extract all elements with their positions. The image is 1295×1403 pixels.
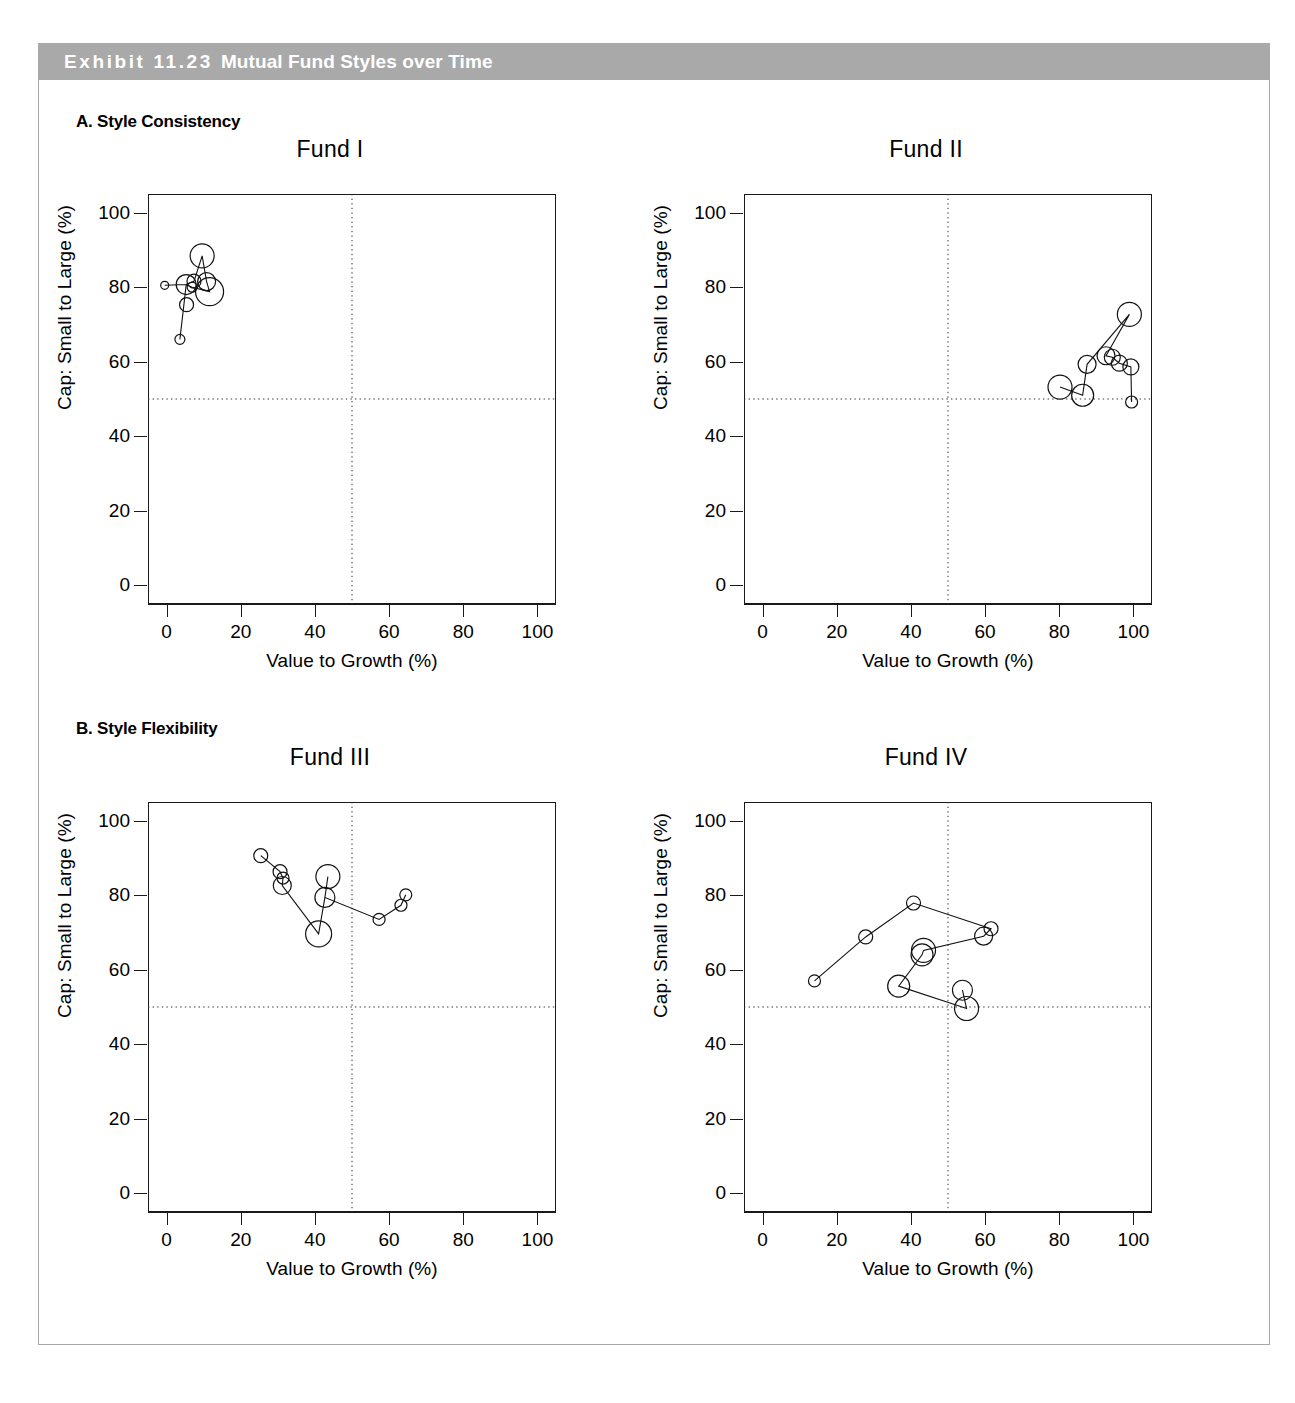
y-tick-mark [134, 362, 147, 363]
chart-panel-fund-4: Fund IV Value to Growth (%) Cap: Small t… [636, 740, 1216, 1285]
x-tick-label: 60 [955, 1229, 1015, 1251]
x-tick-label: 60 [359, 1229, 419, 1251]
x-tick-label: 20 [807, 621, 867, 643]
x-tick-label: 20 [807, 1229, 867, 1251]
data-point-marker [1048, 375, 1072, 399]
data-point-marker [187, 282, 197, 292]
x-axis-line [148, 1212, 556, 1213]
x-tick-mark [537, 1212, 538, 1225]
y-tick-label: 60 [680, 351, 726, 373]
x-tick-label: 0 [733, 621, 793, 643]
data-point-marker [859, 930, 873, 944]
data-point-marker [175, 334, 185, 344]
data-point-marker [1117, 302, 1141, 326]
data-point-marker [273, 876, 291, 894]
data-point-marker [955, 996, 979, 1020]
y-tick-label: 0 [84, 1182, 130, 1204]
x-tick-mark [911, 1212, 912, 1225]
x-tick-label: 100 [1103, 621, 1163, 643]
chart-panel-fund-1: Fund I Value to Growth (%) Cap: Small to… [40, 132, 620, 677]
x-tick-label: 0 [733, 1229, 793, 1251]
x-tick-mark [1133, 604, 1134, 617]
data-point-marker [315, 887, 335, 907]
exhibit-header-bar: Exhibit 11.23Mutual Fund Styles over Tim… [38, 43, 1270, 80]
x-tick-mark [389, 604, 390, 617]
plot-canvas-fund-2 [744, 194, 1152, 604]
y-tick-label: 0 [84, 574, 130, 596]
y-tick-mark [134, 895, 147, 896]
x-tick-mark [837, 604, 838, 617]
x-tick-label: 0 [137, 621, 197, 643]
y-tick-mark [134, 1044, 147, 1045]
x-tick-mark [241, 604, 242, 617]
y-tick-mark [134, 213, 147, 214]
x-tick-mark [167, 604, 168, 617]
x-tick-label: 80 [433, 621, 493, 643]
x-tick-mark [537, 604, 538, 617]
y-tick-mark [730, 1193, 743, 1194]
x-tick-label: 40 [285, 621, 345, 643]
x-tick-label: 60 [955, 621, 1015, 643]
exhibit-header-text: Exhibit 11.23Mutual Fund Styles over Tim… [38, 51, 493, 73]
y-tick-mark [134, 436, 147, 437]
chart-title-fund-1: Fund I [40, 136, 620, 163]
y-tick-mark [730, 362, 743, 363]
exhibit-title: Mutual Fund Styles over Time [221, 51, 493, 72]
y-tick-label: 80 [84, 276, 130, 298]
data-point-marker [1123, 359, 1139, 375]
y-tick-mark [134, 585, 147, 586]
x-tick-mark [315, 1212, 316, 1225]
data-point-marker [190, 244, 214, 268]
data-point-marker [975, 927, 993, 945]
y-tick-label: 60 [84, 351, 130, 373]
x-tick-label: 60 [359, 621, 419, 643]
data-point-marker [1126, 396, 1138, 408]
y-axis-title-fund-1: Cap: Small to Large (%) [54, 205, 76, 410]
data-point-marker [400, 889, 412, 901]
y-tick-label: 40 [680, 425, 726, 447]
y-tick-label: 100 [84, 202, 130, 224]
data-point-marker [907, 896, 921, 910]
x-tick-mark [763, 1212, 764, 1225]
x-tick-mark [241, 1212, 242, 1225]
y-axis-title-fund-2: Cap: Small to Large (%) [650, 205, 672, 410]
data-point-marker [316, 865, 340, 889]
data-point-marker [952, 980, 972, 1000]
y-tick-label: 80 [84, 884, 130, 906]
y-tick-mark [730, 585, 743, 586]
y-tick-label: 100 [84, 810, 130, 832]
y-axis-title-fund-3: Cap: Small to Large (%) [54, 813, 76, 1018]
y-tick-label: 100 [680, 202, 726, 224]
x-tick-label: 40 [881, 1229, 941, 1251]
x-axis-line [744, 604, 1152, 605]
y-tick-label: 40 [84, 1033, 130, 1055]
x-tick-label: 100 [507, 621, 567, 643]
data-point-marker [161, 281, 169, 289]
x-axis-title-fund-1: Value to Growth (%) [148, 650, 556, 672]
data-point-marker [1078, 355, 1096, 373]
data-point-marker [808, 975, 820, 987]
y-tick-mark [730, 511, 743, 512]
y-tick-mark [730, 287, 743, 288]
y-tick-mark [730, 1119, 743, 1120]
x-tick-mark [463, 1212, 464, 1225]
x-tick-mark [985, 604, 986, 617]
data-point-marker [306, 921, 332, 947]
x-tick-mark [167, 1212, 168, 1225]
x-tick-mark [1133, 1212, 1134, 1225]
x-axis-title-fund-3: Value to Growth (%) [148, 1258, 556, 1280]
chart-title-fund-2: Fund II [636, 136, 1216, 163]
data-point-marker [373, 913, 385, 925]
x-tick-mark [315, 604, 316, 617]
x-tick-label: 0 [137, 1229, 197, 1251]
plot-canvas-fund-1 [148, 194, 556, 604]
y-tick-label: 0 [680, 1182, 726, 1204]
x-tick-label: 20 [211, 1229, 271, 1251]
y-tick-mark [730, 1044, 743, 1045]
x-tick-mark [389, 1212, 390, 1225]
y-tick-mark [730, 436, 743, 437]
x-tick-mark [463, 604, 464, 617]
y-tick-label: 60 [84, 959, 130, 981]
plot-canvas-fund-4 [744, 802, 1152, 1212]
plot-canvas-fund-3 [148, 802, 556, 1212]
